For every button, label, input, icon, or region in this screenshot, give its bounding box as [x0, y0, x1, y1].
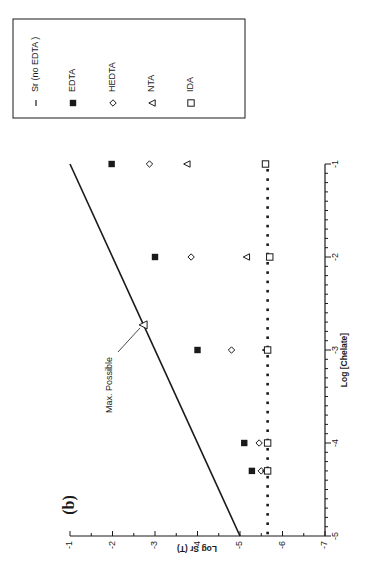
y-tick-label: -7 [319, 541, 329, 549]
legend-box [13, 19, 245, 118]
open-diamond-legend-icon [110, 100, 116, 106]
sr-no-edta-dot [266, 495, 269, 498]
chart: -7-6-5-4-3-2-1-5-4-3-2-1 Log Sr (T) Log … [0, 0, 367, 566]
y-tick-label: -6 [277, 541, 287, 549]
sr-no-edta-dot [266, 411, 269, 414]
open-square-legend-icon [188, 100, 194, 106]
ida-point [267, 254, 273, 260]
sr-no-edta-dot [266, 206, 269, 209]
sr-no-edta-dot [266, 448, 269, 451]
legend-label: EDTA [67, 69, 77, 92]
x-tick-label: -1 [330, 160, 340, 168]
sr-no-edta-dot [266, 485, 269, 488]
legend [13, 19, 245, 118]
sr-no-edta-dot [266, 197, 269, 200]
ida-point [264, 468, 270, 474]
x-tick-label: -5 [330, 532, 340, 540]
hedta-point [146, 161, 152, 167]
y-axis-label: Log Sr (T) [177, 544, 217, 554]
ida-point [264, 347, 270, 353]
sr-no-edta-dot [266, 476, 269, 479]
legend-item: HEDTA [107, 62, 117, 106]
sr-no-edta-dot [266, 290, 269, 293]
edta-point [241, 440, 247, 446]
ida-point [262, 161, 268, 167]
sr-no-edta-dot [266, 504, 269, 507]
edta-point [249, 468, 255, 474]
legend-item: Sr (no EDTA ) [30, 37, 40, 106]
x-axis-label: Log [Chelate] [339, 333, 349, 387]
sr-no-edta-dot [266, 318, 269, 321]
y-tick-label: -2 [107, 541, 117, 549]
legend-label: IDA [185, 77, 195, 92]
legend-label: Sr (no EDTA ) [30, 37, 40, 92]
max-possible-label: Max. Possible [104, 357, 114, 413]
hedta-point [228, 347, 234, 353]
sr-no-edta-dot [266, 392, 269, 395]
sr-no-edta-dot [266, 336, 269, 339]
max-possible-line [70, 164, 240, 536]
sr-no-edta-dot [266, 383, 269, 386]
sr-no-edta-dot [266, 216, 269, 219]
legend-item: EDTA [67, 69, 77, 107]
sr-no-edta-dot [266, 188, 269, 191]
sr-no-edta-dot [266, 169, 269, 172]
edta-point [108, 161, 114, 167]
open-triangle-legend-icon [149, 100, 155, 106]
y-tick-label: -1 [64, 541, 74, 549]
sr-no-edta-dot [266, 262, 269, 265]
panel-label: (b) [60, 495, 78, 515]
hedta-point [256, 440, 262, 446]
hedta-point [188, 254, 194, 260]
sr-no-edta-dot [266, 374, 269, 377]
legend-items: Sr (no EDTA )EDTAHEDTANTAIDA [30, 37, 195, 107]
annotation-leader-line [118, 328, 140, 352]
tick-labels: -7-6-5-4-3-2-1-5-4-3-2-1 [64, 160, 340, 549]
sr-no-edta-dot [266, 271, 269, 274]
y-tick-label: -3 [149, 541, 159, 549]
edta-point [152, 254, 158, 260]
y-tick-label: -5 [234, 541, 244, 549]
sr-no-edta-dot [266, 402, 269, 405]
sr-no-edta-dot [266, 225, 269, 228]
x-tick-label: -2 [330, 253, 340, 261]
legend-item: IDA [185, 77, 195, 106]
legend-item: NTA [146, 75, 156, 107]
sr-no-edta-dot [266, 420, 269, 423]
sr-no-edta-dot [266, 309, 269, 312]
legend-label: HEDTA [107, 62, 117, 92]
sr-no-edta-dot [266, 355, 269, 358]
sr-no-edta-dot [266, 299, 269, 302]
sr-no-edta-dot [266, 457, 269, 460]
sr-no-edta-dot [266, 281, 269, 284]
sr-no-edta-dot [266, 178, 269, 181]
legend-label: NTA [146, 75, 156, 92]
sr-no-edta-dot [266, 532, 269, 535]
nta-point [243, 254, 249, 260]
sr-no-edta-dot [266, 327, 269, 330]
plot-area: Max. Possible [70, 161, 273, 536]
sr-no-edta-dot [266, 513, 269, 516]
sr-no-edta-dot [266, 522, 269, 525]
sr-no-edta-dot [266, 234, 269, 237]
nta-point [184, 161, 190, 167]
sr-no-edta-dot [266, 429, 269, 432]
filled-square-legend-icon [70, 100, 76, 106]
edta-point [194, 347, 200, 353]
sr-no-edta-dot [266, 364, 269, 367]
ida-point [264, 440, 270, 446]
sr-no-edta-dot [266, 243, 269, 246]
x-tick-label: -4 [330, 439, 340, 447]
